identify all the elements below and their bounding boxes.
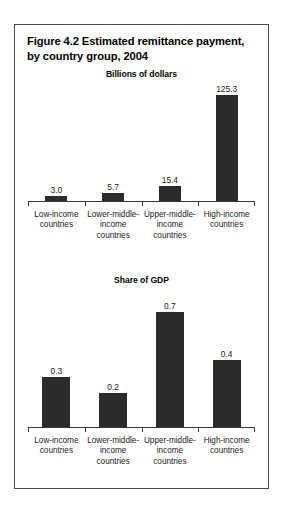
bar-value-label: 5.7 [107,182,119,192]
plot-area-billions: 3.0 5.7 15.4 125.3 [28,83,255,201]
axis-tick [85,427,86,432]
plot-area-gdp: 0.3 0.2 0.7 0.4 [28,289,255,427]
bar-slot: 3.0 [28,83,85,201]
category-labels-gdp: Low-income countries Lower-middle-income… [28,436,255,467]
category-label: High-income countries [198,210,255,241]
bar-value-label: 0.2 [107,382,119,392]
bar-group-billions: 3.0 5.7 15.4 125.3 [28,83,255,201]
bar-slot: 0.3 [28,289,85,427]
axis-tick [28,201,29,206]
bar-value-label: 0.4 [221,349,233,359]
bar [99,393,127,427]
bar [216,95,238,201]
category-label: Low-income countries [28,436,85,467]
bar [156,312,184,427]
category-label: High-income countries [198,436,255,467]
chart-panel-gdp: Share of GDP 0.3 0.2 0.7 0.4 [15,275,268,487]
bar [213,360,241,427]
bar-slot: 15.4 [142,83,199,201]
category-label: Low-income countries [28,210,85,241]
category-labels-billions: Low-income countries Lower-middle-income… [28,210,255,241]
bar-slot: 0.4 [198,289,255,427]
panel-subtitle-billions: Billions of dollars [15,69,268,79]
bar-group-gdp: 0.3 0.2 0.7 0.4 [28,289,255,427]
bar-slot: 0.2 [85,289,142,427]
axis-tick [198,201,199,206]
bar-value-label: 125.3 [216,84,237,94]
bar [159,186,181,201]
axis-tick [28,427,29,432]
bar [102,193,124,201]
panel-subtitle-gdp: Share of GDP [15,275,268,285]
axis-tick [142,201,143,206]
category-label: Upper-middle-income countries [142,436,199,467]
bar [42,377,70,427]
bar-slot: 125.3 [198,83,255,201]
figure-title: Figure 4.2 Estimated remittance payment,… [27,34,259,63]
bar-slot: 5.7 [85,83,142,201]
axis-tick [254,201,255,206]
category-label: Upper-middle-income countries [142,210,199,241]
category-label: Lower-middle-income countries [85,210,142,241]
chart-panel-billions: Billions of dollars 3.0 5.7 15.4 125.3 [15,69,268,269]
axis-tick [198,427,199,432]
bar-value-label: 15.4 [162,175,178,185]
bar-value-label: 0.3 [51,366,63,376]
bar-value-label: 3.0 [51,185,63,195]
x-axis-billions [28,201,255,208]
bar-slot: 0.7 [142,289,199,427]
bar-value-label: 0.7 [164,301,176,311]
x-axis-gdp [28,427,255,434]
axis-tick [85,201,86,206]
category-label: Lower-middle-income countries [85,436,142,467]
axis-tick [142,427,143,432]
figure-frame: Figure 4.2 Estimated remittance payment,… [14,24,269,489]
axis-tick [254,427,255,432]
